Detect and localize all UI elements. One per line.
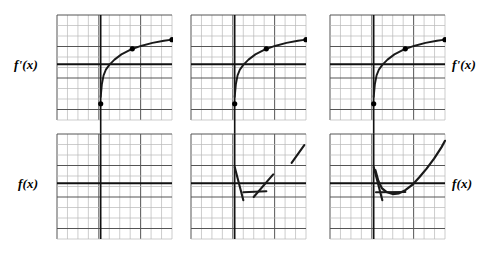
grid-lines	[191, 15, 306, 120]
panel-axes	[57, 15, 172, 134]
data-point	[371, 101, 376, 106]
f-label-left: f(x)	[18, 176, 38, 192]
fprime-label-right: f'(x)	[452, 57, 476, 73]
grid-lines	[330, 134, 445, 239]
fprime-panel-2	[190, 14, 307, 137]
tangent-segment	[243, 191, 266, 192]
fprime-label-left: f'(x)	[14, 57, 38, 73]
data-point	[303, 37, 307, 42]
f-panel-2-canvas	[190, 133, 307, 255]
grid-lines	[191, 134, 306, 239]
f-panel-2	[190, 133, 307, 255]
f-label-right: f(x)	[452, 176, 472, 192]
fprime-panel-2-canvas	[190, 14, 307, 137]
f-panel-1	[56, 133, 173, 255]
data-point	[169, 37, 173, 42]
fprime-panel-3-canvas	[329, 14, 446, 137]
f-panel-1-canvas	[56, 133, 173, 255]
fprime-panel-1-canvas	[56, 14, 173, 137]
f-panel-3	[329, 133, 446, 255]
tangent-segment	[254, 174, 274, 197]
data-point	[130, 46, 135, 51]
data-point	[442, 37, 446, 42]
f-tangent-segments	[235, 145, 305, 200]
data-point	[403, 46, 408, 51]
data-point	[264, 46, 269, 51]
grid-lines	[330, 15, 445, 120]
tangent-segment	[292, 145, 305, 163]
f-panel-3-canvas	[329, 133, 446, 255]
figure-root: f'(x) f'(x) f(x) f(x)	[0, 0, 502, 255]
fprime-panel-1	[56, 14, 173, 137]
grid-lines	[57, 134, 172, 239]
panel-axes	[191, 15, 306, 134]
panel-axes	[330, 15, 445, 134]
grid-lines	[57, 15, 172, 120]
data-point	[98, 101, 103, 106]
data-point	[232, 101, 237, 106]
fprime-panel-3	[329, 14, 446, 137]
